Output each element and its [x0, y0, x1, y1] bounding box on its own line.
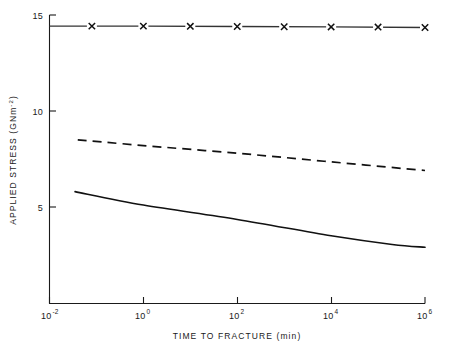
x-tick-label-1e-2: 10 -2	[41, 308, 59, 321]
series-solid-curve	[75, 192, 425, 248]
x-marker	[279, 22, 289, 32]
y-tick-label-10: 10	[33, 107, 43, 117]
axes-group	[50, 15, 426, 304]
applied-stress-vs-time-to-fracture-chart: 15 10 5 10 -2 10 0 10 2 10 4 10 6 TIME T…	[0, 0, 449, 347]
series-dashed-line	[78, 140, 425, 171]
data-series-layer	[50, 21, 431, 247]
y-axis-title-base: APPLIED STRESS (GNm	[8, 107, 18, 225]
axis-lines	[50, 15, 426, 304]
y-axis-title-exponent: -2	[8, 99, 14, 107]
x-marker	[373, 22, 383, 32]
x-axis-title-text: TIME TO FRACTURE (min)	[173, 331, 302, 341]
x-tick-exp-1e6: 6	[429, 308, 433, 315]
x-tick-labels: 10 -2 10 0 10 2 10 4 10 6	[41, 308, 433, 321]
x-marker	[87, 21, 97, 31]
x-tick-base-1e-2: 10	[41, 311, 51, 321]
x-tick-label-1e2: 10 2	[229, 308, 245, 321]
y-tick-label-15: 15	[33, 11, 43, 21]
x-marker	[185, 21, 195, 31]
x-marker	[138, 21, 148, 31]
x-tick-base-1e4: 10	[323, 311, 333, 321]
x-tick-label-1e0: 10 0	[135, 308, 151, 321]
x-axis-title: TIME TO FRACTURE (min)	[173, 331, 302, 341]
y-tick-label-5: 5	[38, 203, 43, 213]
y-axis-title-tail: )	[8, 95, 18, 99]
x-tick-label-1e6: 10 6	[417, 308, 433, 321]
y-axis-title: APPLIED STRESS (GNm-2)	[8, 95, 19, 225]
x-marker	[326, 22, 336, 32]
x-tick-marks	[50, 297, 426, 304]
x-tick-exp-1e2: 2	[241, 308, 245, 315]
y-tick-labels: 15 10 5	[33, 11, 43, 213]
x-tick-base-1e0: 10	[135, 311, 145, 321]
x-tick-label-1e4: 10 4	[323, 308, 339, 321]
x-tick-exp-1e0: 0	[147, 308, 151, 315]
y-tick-marks	[50, 15, 57, 207]
x-marker	[420, 22, 430, 32]
x-tick-exp-1e4: 4	[335, 308, 339, 315]
x-tick-base-1e2: 10	[229, 311, 239, 321]
x-tick-base-1e6: 10	[417, 311, 427, 321]
y-axis-title-text: APPLIED STRESS (GNm-2)	[8, 95, 19, 225]
x-tick-exp-1e-2: -2	[53, 308, 59, 315]
x-marker	[232, 22, 242, 32]
